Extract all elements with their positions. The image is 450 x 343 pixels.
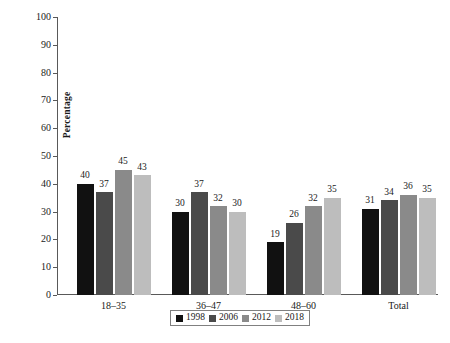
plot-area: 1009080706050403020100 4037454318–353037…: [57, 17, 438, 295]
y-tick-mark: [53, 212, 57, 213]
y-tick-mark: [53, 73, 57, 74]
bar-slot: 43: [134, 17, 151, 295]
bar[interactable]: [324, 198, 341, 295]
y-tick-label: 70: [41, 95, 51, 105]
bar-slot: 30: [229, 17, 246, 295]
bar-slot: 32: [305, 17, 322, 295]
legend-item[interactable]: 1998: [176, 313, 205, 323]
bar-value-label: 19: [270, 230, 280, 240]
bar-value-label: 30: [175, 199, 185, 209]
bar-value-label: 36: [403, 182, 413, 192]
bar-slot: 31: [362, 17, 379, 295]
bar[interactable]: [419, 198, 436, 295]
bar-value-label: 35: [327, 185, 337, 195]
bar-value-label: 31: [365, 196, 375, 206]
chart-legend: 1998200620122018: [170, 310, 310, 326]
y-tick-mark: [53, 184, 57, 185]
bar-slot: 32: [210, 17, 227, 295]
bar-groups: 4037454318–353037323036–471926323548–603…: [58, 17, 438, 295]
legend-item[interactable]: 2012: [242, 313, 271, 323]
legend-item[interactable]: 2006: [209, 313, 238, 323]
bar[interactable]: [362, 209, 379, 295]
legend-label: 2018: [285, 313, 304, 323]
legend-label: 1998: [186, 313, 205, 323]
bar-value-label: 37: [194, 180, 204, 190]
bar-value-label: 26: [289, 210, 299, 220]
bar-group: 3037323036–47: [172, 17, 246, 295]
bar-value-label: 34: [384, 188, 394, 198]
y-tick-label: 60: [41, 123, 51, 133]
y-tick-mark: [53, 45, 57, 46]
legend-swatch-icon: [242, 315, 249, 322]
y-tick-label: 10: [41, 262, 51, 272]
bar-value-label: 32: [308, 194, 318, 204]
bar[interactable]: [286, 223, 303, 295]
bar[interactable]: [191, 192, 208, 295]
bar-slot: 37: [96, 17, 113, 295]
y-tick-label: 50: [41, 151, 51, 161]
bar-group: 31343635Total: [362, 17, 436, 295]
bar-value-label: 45: [118, 157, 128, 167]
legend-label: 2006: [219, 313, 238, 323]
y-tick-label: 20: [41, 234, 51, 244]
legend-swatch-icon: [209, 315, 216, 322]
bar[interactable]: [134, 175, 151, 295]
bar[interactable]: [96, 192, 113, 295]
bar[interactable]: [267, 242, 284, 295]
bar-value-label: 40: [80, 171, 90, 181]
bar-value-label: 35: [422, 185, 432, 195]
bar-slot: 34: [381, 17, 398, 295]
y-tick-mark: [53, 100, 57, 101]
y-tick-label: 80: [41, 68, 51, 78]
legend-item[interactable]: 2018: [275, 313, 304, 323]
y-tick-label: 100: [36, 12, 51, 22]
bar-value-label: 32: [213, 194, 223, 204]
bar-slot: 36: [400, 17, 417, 295]
y-tick-mark: [53, 17, 57, 18]
bar-slot: 40: [77, 17, 94, 295]
y-tick-mark: [53, 128, 57, 129]
x-axis-category-label: 18–35: [101, 300, 126, 311]
y-tick-label: 90: [41, 40, 51, 50]
bar[interactable]: [381, 200, 398, 295]
bar-value-label: 30: [232, 199, 242, 209]
bar-chart-figure: Percentage 1009080706050403020100 403745…: [0, 0, 450, 343]
bar-group: 1926323548–60: [267, 17, 341, 295]
x-axis-category-label: Total: [388, 300, 408, 311]
bar-slot: 45: [115, 17, 132, 295]
bar[interactable]: [400, 195, 417, 295]
bar[interactable]: [172, 212, 189, 295]
bar-slot: 35: [419, 17, 436, 295]
legend-swatch-icon: [176, 315, 183, 322]
legend-label: 2012: [252, 313, 271, 323]
bar-group: 4037454318–35: [77, 17, 151, 295]
bar-slot: 37: [191, 17, 208, 295]
y-tick-label: 30: [41, 207, 51, 217]
y-tick-mark: [53, 267, 57, 268]
bar-value-label: 43: [137, 163, 147, 173]
bar[interactable]: [210, 206, 227, 295]
y-tick-mark: [53, 239, 57, 240]
y-tick-label: 40: [41, 179, 51, 189]
legend-swatch-icon: [275, 315, 282, 322]
bar[interactable]: [305, 206, 322, 295]
bar-slot: 26: [286, 17, 303, 295]
bar[interactable]: [115, 170, 132, 295]
y-tick-mark: [53, 156, 57, 157]
y-tick-mark: [53, 295, 57, 296]
bar[interactable]: [77, 184, 94, 295]
bar-value-label: 37: [99, 180, 109, 190]
bar-slot: 19: [267, 17, 284, 295]
bar[interactable]: [229, 212, 246, 295]
bar-slot: 30: [172, 17, 189, 295]
y-tick-label: 0: [46, 290, 51, 300]
bar-slot: 35: [324, 17, 341, 295]
